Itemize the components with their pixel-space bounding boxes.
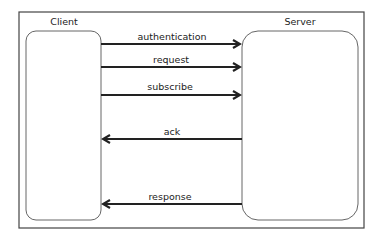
message-label-ack: ack (164, 126, 181, 137)
message-label-authentication: authentication (137, 31, 206, 42)
client-label: Client (50, 16, 78, 27)
client-box (26, 31, 101, 220)
message-label-subscribe: subscribe (147, 81, 193, 92)
message-label-request: request (153, 54, 189, 65)
server-box (242, 31, 358, 220)
message-label-response: response (148, 191, 191, 202)
server-label: Server (284, 16, 315, 27)
